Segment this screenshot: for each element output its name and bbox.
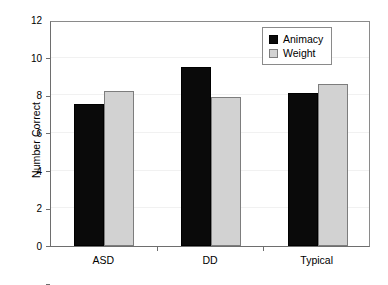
y-tick-mark: [46, 171, 50, 172]
bar-asd-weight: [104, 91, 134, 246]
y-tick-label: 2: [18, 204, 42, 214]
y-axis-title: Number Correct: [30, 60, 42, 220]
y-tick-label: 8: [18, 91, 42, 101]
bar-chart-figure: Number Correct 024681012 ASDDDTypical An…: [0, 0, 388, 285]
x-tick-label-dd: DD: [165, 254, 255, 266]
legend-label: Animacy: [283, 34, 323, 45]
x-tick-label-asd: ASD: [58, 254, 148, 266]
y-tick-mark: [46, 246, 50, 247]
y-tick-mark: [46, 209, 50, 210]
bar-typical-weight: [318, 84, 348, 246]
bar-dd-animacy: [181, 67, 211, 246]
gray-square-swatch-icon: [269, 49, 278, 58]
x-tick-mark: [263, 247, 264, 251]
y-tick-label: 4: [18, 167, 42, 177]
y-tick-label: 6: [18, 129, 42, 139]
x-tick-label-typical: Typical: [272, 254, 362, 266]
bar-typical-animacy: [288, 93, 318, 246]
black-square-swatch-icon: [269, 35, 278, 44]
y-tick-label: 10: [18, 54, 42, 64]
bar-dd-weight: [211, 97, 241, 246]
y-tick-label: 12: [18, 16, 42, 26]
legend-label: Weight: [283, 48, 316, 59]
legend-item-weight: Weight: [269, 46, 323, 60]
legend-item-animacy: Animacy: [269, 32, 323, 46]
y-tick-mark: [46, 58, 50, 59]
legend: Animacy Weight: [262, 27, 332, 65]
y-tick-mark: [46, 133, 50, 134]
x-tick-mark: [157, 247, 158, 251]
y-tick-label: 0: [18, 242, 42, 252]
bar-asd-animacy: [74, 104, 104, 246]
y-tick-mark: [46, 96, 50, 97]
